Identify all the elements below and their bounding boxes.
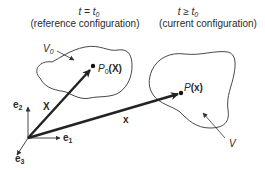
reference-volume-label: V0 bbox=[43, 43, 54, 55]
e2-label: e2 bbox=[13, 99, 22, 111]
current-point-text: P bbox=[184, 82, 191, 93]
current-caption: (current configuration) bbox=[152, 18, 264, 29]
current-position-label: x bbox=[123, 114, 129, 125]
reference-point-label: P0(X) bbox=[98, 63, 122, 75]
current-time-label: t ≥ t0 bbox=[163, 6, 213, 18]
e3-subscript: 3 bbox=[21, 158, 25, 165]
current-time-text: t ≥ t bbox=[178, 6, 195, 17]
reference-point bbox=[91, 64, 95, 68]
reference-point-argument: (X) bbox=[109, 63, 122, 74]
reference-time-text: t = t bbox=[79, 6, 96, 17]
e1-subscript: 1 bbox=[69, 137, 73, 144]
current-point-label: P(x) bbox=[184, 82, 203, 93]
current-volume-label: V bbox=[229, 138, 236, 149]
reference-time-subscript: 0 bbox=[96, 11, 100, 18]
reference-volume-pointer bbox=[57, 51, 74, 60]
e1-label: e1 bbox=[63, 132, 72, 144]
current-position-vector bbox=[28, 94, 178, 138]
reference-caption: (reference configuration) bbox=[20, 18, 150, 29]
current-point bbox=[179, 91, 183, 95]
reference-volume-text: V bbox=[43, 43, 50, 54]
current-time-subscript: 0 bbox=[194, 11, 198, 18]
reference-point-text: P bbox=[98, 63, 105, 74]
reference-volume-subscript: 0 bbox=[50, 48, 54, 55]
reference-time-label: t = t0 bbox=[64, 6, 114, 18]
e3-label: e3 bbox=[15, 153, 24, 165]
reference-position-label: X bbox=[43, 101, 50, 112]
current-point-argument: (x) bbox=[191, 82, 203, 93]
e2-subscript: 2 bbox=[19, 104, 23, 111]
